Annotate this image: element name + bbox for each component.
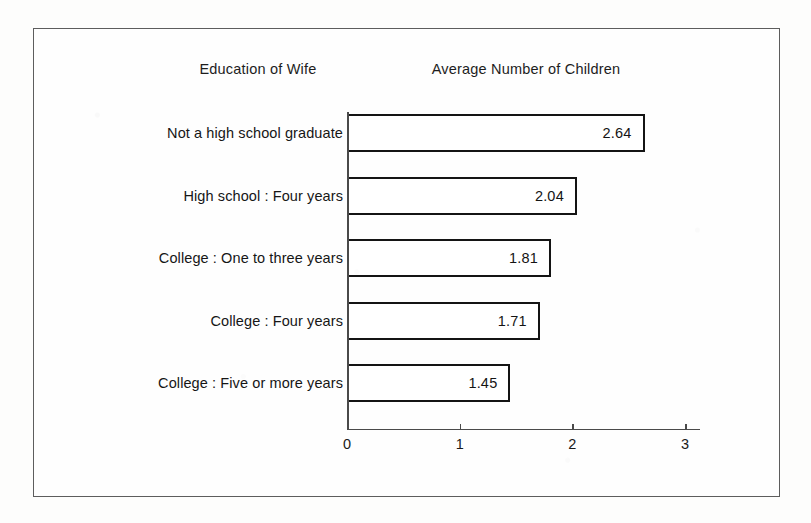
x-tick-mark: [347, 424, 349, 430]
category-label: College : Five or more years: [40, 364, 343, 402]
x-tick-label: 0: [337, 436, 357, 452]
bar-chart-plot-area: Not a high school graduate2.64High schoo…: [0, 0, 811, 523]
category-label: Not a high school graduate: [40, 114, 343, 152]
bar-value-label: 1.45: [468, 366, 497, 400]
bar-value-label: 2.64: [602, 116, 631, 150]
x-tick-label: 2: [562, 436, 582, 452]
category-label: College : One to three years: [40, 239, 343, 277]
scanned-page: Education of Wife Average Number of Chil…: [0, 0, 811, 523]
y-axis-line: [347, 112, 349, 430]
bar: 1.45: [347, 364, 510, 402]
bar: 2.64: [347, 114, 645, 152]
x-axis-line: [347, 429, 700, 431]
bar-value-label: 1.71: [498, 304, 527, 338]
x-tick-mark: [685, 424, 687, 430]
category-label: College : Four years: [40, 302, 343, 340]
x-tick-mark: [460, 424, 462, 430]
bar-value-label: 1.81: [509, 241, 538, 275]
category-label: High school : Four years: [40, 177, 343, 215]
x-tick-label: 3: [675, 436, 695, 452]
bar: 1.71: [347, 302, 540, 340]
x-tick-mark: [572, 424, 574, 430]
x-tick-label: 1: [450, 436, 470, 452]
bar: 1.81: [347, 239, 551, 277]
bar: 2.04: [347, 177, 577, 215]
bar-value-label: 2.04: [535, 179, 564, 213]
